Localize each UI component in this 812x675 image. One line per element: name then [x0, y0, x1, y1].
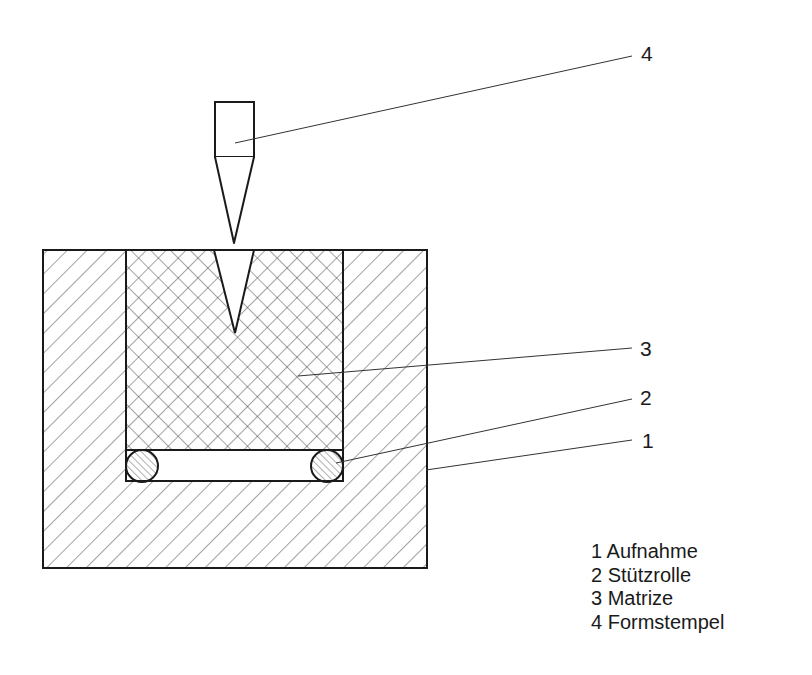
callout-2: 2	[640, 387, 652, 408]
callout-3: 3	[640, 338, 652, 359]
legend-item-matrize: 3 Matrize	[591, 587, 724, 611]
leader-line-1	[426, 440, 632, 470]
legend: 1 Aufnahme 2 Stützrolle 3 Matrize 4 Form…	[591, 540, 724, 634]
callout-1: 1	[642, 430, 654, 451]
legend-item-aufnahme: 1 Aufnahme	[591, 540, 724, 564]
legend-item-formstempel: 4 Formstempel	[591, 611, 724, 635]
matrize-part	[126, 250, 343, 481]
legend-item-stuetzrolle: 2 Stützrolle	[591, 564, 724, 588]
formstempel-part	[215, 102, 254, 243]
leader-line-4	[235, 56, 632, 143]
callout-4: 4	[641, 43, 653, 64]
